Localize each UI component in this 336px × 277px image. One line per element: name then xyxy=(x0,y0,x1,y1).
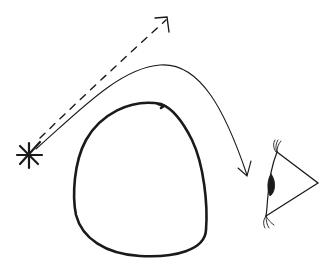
occluder-blob xyxy=(74,103,206,257)
diagram-svg xyxy=(0,0,336,277)
eye-icon xyxy=(264,140,318,228)
diagram-canvas: Light path around an occluding object to… xyxy=(0,0,336,277)
curved-ray-arrow xyxy=(36,65,251,176)
star-icon xyxy=(17,142,42,168)
